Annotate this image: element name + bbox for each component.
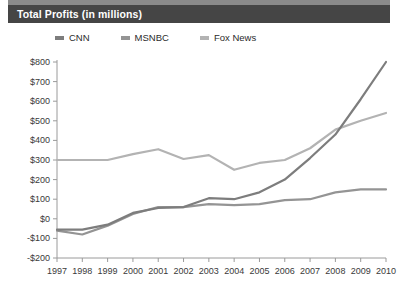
series-line-fox-news — [57, 113, 386, 170]
legend-item-msnbc[interactable]: MSNBC — [121, 32, 169, 43]
x-tick-label: 2006 — [275, 266, 295, 276]
x-tick-label: 2004 — [224, 266, 244, 276]
legend-label-cnn: CNN — [69, 32, 90, 43]
series-line-cnn — [57, 62, 386, 230]
chart-legend: CNN MSNBC Fox News — [55, 32, 256, 43]
series-line-msnbc — [57, 189, 386, 234]
chart-svg — [0, 0, 406, 298]
y-tick-label: $0 — [0, 214, 50, 224]
plot-area — [0, 0, 406, 298]
x-tick-label: 1997 — [47, 266, 67, 276]
y-tick-label: $500 — [0, 116, 50, 126]
x-tick-label: 2003 — [199, 266, 219, 276]
chart-title: Total Profits (in millions) — [8, 8, 142, 20]
x-tick-label: 1998 — [72, 266, 92, 276]
x-tick-label: 2010 — [376, 266, 396, 276]
x-tick-label: 2001 — [148, 266, 168, 276]
y-tick-label: -$100 — [0, 233, 50, 243]
y-tick-label: $800 — [0, 57, 50, 67]
y-tick-label: $600 — [0, 96, 50, 106]
legend-label-msnbc: MSNBC — [135, 32, 169, 43]
legend-item-cnn[interactable]: CNN — [55, 32, 90, 43]
y-tick-label: $100 — [0, 194, 50, 204]
y-tick-label: -$200 — [0, 253, 50, 263]
x-tick-label: 2005 — [249, 266, 269, 276]
legend-item-foxnews[interactable]: Fox News — [200, 32, 256, 43]
y-tick-label: $700 — [0, 77, 50, 87]
legend-label-foxnews: Fox News — [214, 32, 256, 43]
legend-swatch-msnbc — [121, 36, 130, 40]
x-tick-label: 2008 — [325, 266, 345, 276]
chart-title-bar: Total Profits (in millions) — [8, 5, 390, 23]
legend-swatch-cnn — [55, 36, 64, 40]
y-tick-label: $400 — [0, 135, 50, 145]
x-tick-label: 2000 — [123, 266, 143, 276]
x-tick-label: 2002 — [174, 266, 194, 276]
x-tick-label: 1999 — [98, 266, 118, 276]
x-tick-label: 2007 — [300, 266, 320, 276]
x-tick-label: 2009 — [351, 266, 371, 276]
y-tick-label: $200 — [0, 175, 50, 185]
y-tick-label: $300 — [0, 155, 50, 165]
legend-swatch-foxnews — [200, 36, 209, 40]
chart-card: Total Profits (in millions) CNN MSNBC Fo… — [0, 0, 406, 298]
